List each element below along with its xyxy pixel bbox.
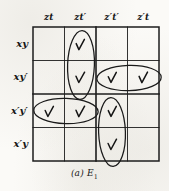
row-header-xyp: xy′ [0,69,31,85]
grid-lines [30,24,162,164]
row-header-xpy: x′y [0,136,31,152]
column-header-zptp: z′t′ [96,10,128,24]
karnaugh-grid [33,27,159,161]
check-mark-r2c4 [137,70,150,84]
caption-label: (a) [71,168,84,178]
check-mark-r2c3 [106,70,119,84]
figure-caption: (a) E1 [0,168,169,181]
check-mark-r3c3 [106,104,119,118]
karnaugh-map-figure: zt zt′ z′t′ z′t xy xy′ x′y′ x′y [0,0,169,191]
check-mark-r3c1 [43,104,56,118]
check-mark-r4c3 [106,137,119,151]
column-header-zt: zt [33,10,65,24]
row-header-xpyp: x′y′ [0,103,31,119]
check-mark-r3c2 [74,104,87,118]
check-mark-r2c2 [74,70,87,84]
column-header-zpt: z′t [128,10,160,24]
caption-expression: E [87,168,94,178]
caption-subscript: 1 [94,173,98,181]
check-mark-r1c2 [74,37,87,51]
column-header-ztp: zt′ [65,10,97,24]
row-header-xy: xy [0,36,31,52]
